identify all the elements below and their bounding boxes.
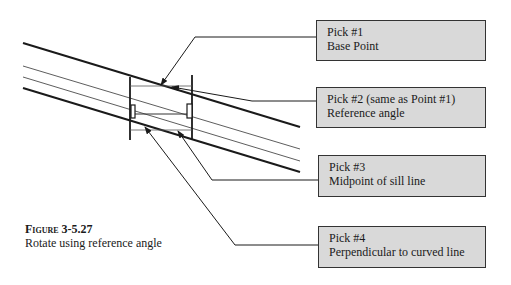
figure-description: Rotate using reference angle: [25, 236, 162, 250]
callout-pick4-title: Pick #4: [329, 231, 485, 245]
leader-pick1: [161, 37, 318, 85]
callout-pick4-desc: Perpendicular to curved line: [329, 245, 485, 259]
callout-pick1: Pick #1 Base Point: [316, 20, 486, 61]
callout-pick3-title: Pick #3: [329, 160, 485, 174]
callout-pick3: Pick #3 Midpoint of sill line: [318, 155, 486, 197]
leader-pick4: [145, 127, 318, 245]
figure-number: Figure 3-5.27: [25, 222, 162, 236]
figure-caption: Figure 3-5.27 Rotate using reference ang…: [25, 222, 162, 250]
callout-pick1-title: Pick #1: [327, 25, 485, 39]
callout-pick2-desc: Reference angle: [327, 106, 485, 120]
callout-pick1-desc: Base Point: [327, 39, 485, 53]
callout-pick3-desc: Midpoint of sill line: [329, 174, 485, 188]
callout-pick2: Pick #2 (same as Point #1) Reference ang…: [316, 87, 486, 128]
callout-pick2-title: Pick #2 (same as Point #1): [327, 92, 485, 106]
callout-pick4: Pick #4 Perpendicular to curved line: [318, 226, 486, 268]
